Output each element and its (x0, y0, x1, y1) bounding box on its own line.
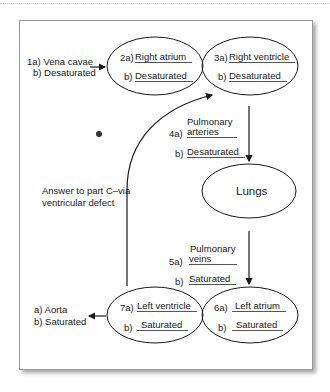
right-ventricle-a-label: Right ventricle (229, 51, 295, 63)
right-ventricle-ellipse (202, 37, 298, 95)
pulmonary-veins-b-prefix: b) (175, 276, 183, 287)
pulmonary-veins-b-label: Saturated (189, 273, 236, 285)
aorta-b: b) Saturated (34, 316, 86, 327)
left-ventricle-b-prefix: b) (124, 322, 132, 333)
left-atrium-a-label: Left atrium (232, 300, 286, 312)
right-atrium-b-label: Desaturated (135, 70, 193, 82)
right-atrium-b-prefix: b) (124, 71, 132, 82)
pulmonary-veins-a-prefix: 5a) (169, 256, 183, 267)
pulmonary-arteries-b-label: Desaturated (187, 146, 245, 158)
left-ventricle-a-label: Left ventricle (137, 300, 197, 312)
right-atrium-ellipse (107, 37, 203, 95)
left-ventricle-b-label: Saturated (137, 319, 188, 331)
vena-cavae-a: 1a) Vena cavae (27, 56, 93, 67)
annotation-line2: ventricular defect (42, 197, 114, 208)
right-ventricle-b-label: Desaturated (229, 70, 287, 82)
lungs-label: Lungs (236, 185, 267, 198)
left-ventricle-ellipse (107, 287, 203, 343)
pulmonary-arteries-b-prefix: b) (175, 148, 183, 159)
left-atrium-a-prefix: 6a) (214, 302, 228, 313)
right-atrium-a-prefix: 2a) (120, 52, 134, 63)
left-ventricle-a-prefix: 7a) (120, 302, 134, 313)
stray-mark (96, 131, 102, 137)
aorta-a: a) Aorta (34, 304, 67, 315)
left-atrium-ellipse (202, 287, 298, 343)
pulmonary-arteries-line2: arteries (187, 126, 237, 138)
right-ventricle-b-prefix: b) (218, 71, 226, 82)
left-atrium-b-prefix: b) (218, 322, 226, 333)
pulmonary-veins-line2: veins (189, 253, 237, 265)
annotation-line1: Answer to part C–via (42, 185, 130, 196)
vena-cavae-b: b) Desaturated (33, 67, 96, 78)
right-atrium-a-label: Right atrium (135, 51, 192, 63)
right-ventricle-a-prefix: 3a) (214, 52, 228, 63)
left-atrium-b-label: Saturated (232, 319, 283, 331)
pulmonary-arteries-a-prefix: 4a) (169, 128, 183, 139)
